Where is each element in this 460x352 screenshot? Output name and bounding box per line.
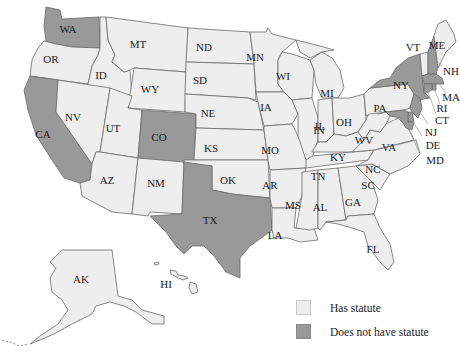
legend-label-has-statute: Has statute: [330, 302, 381, 314]
state-label-co: CO: [151, 132, 166, 143]
state-mt: [106, 17, 188, 72]
state-label-tx: TX: [203, 215, 218, 226]
state-label-ca: CA: [35, 129, 50, 140]
state-label-ct: CT: [435, 115, 449, 126]
state-label-pa: PA: [373, 103, 386, 114]
state-label-nc: NC: [365, 164, 380, 175]
state-label-ny: NY: [393, 80, 409, 91]
leader-line-nj: [420, 112, 428, 124]
legend-item-no-statute: Does not have statute: [296, 324, 429, 339]
state-label-ia: IA: [260, 102, 272, 113]
state-label-sd: SD: [193, 75, 207, 86]
state-ma: [422, 74, 444, 84]
state-label-az: AZ: [100, 175, 115, 186]
state-label-ne: NE: [201, 108, 216, 119]
state-co: [138, 110, 196, 164]
state-label-ak: AK: [73, 274, 89, 285]
state-label-fl: FL: [367, 244, 380, 255]
state-label-sc: SC: [361, 180, 374, 191]
state-label-ok: OK: [220, 175, 236, 186]
state-label-in: IN: [313, 125, 325, 136]
state-ak: [30, 250, 164, 344]
state-label-nd: ND: [196, 42, 212, 53]
state-label-or: OR: [43, 54, 58, 65]
state-label-md: MD: [426, 155, 444, 166]
state-ri: [432, 84, 436, 90]
legend-label-no-statute: Does not have statute: [330, 326, 429, 338]
state-label-wi: WI: [276, 71, 290, 82]
state-label-mt: MT: [130, 39, 147, 50]
state-label-ga: GA: [345, 197, 361, 208]
state-label-ri: RI: [437, 103, 448, 114]
state-label-la: LA: [268, 230, 283, 241]
state-label-ut: UT: [106, 123, 121, 134]
state-label-ms: MS: [285, 200, 301, 211]
state-label-ar: AR: [262, 180, 277, 191]
state-ne: [185, 94, 264, 130]
state-label-nh: NH: [443, 66, 459, 77]
aleutian-islands: [2, 340, 28, 346]
legend-item-has-statute: Has statute: [296, 300, 381, 315]
state-label-ks: KS: [204, 143, 218, 154]
state-fl: [326, 214, 394, 270]
state-label-vt: VT: [406, 42, 421, 53]
state-label-mn: MN: [246, 52, 264, 63]
state-label-wy: WY: [141, 84, 159, 95]
state-label-al: AL: [313, 202, 328, 213]
legend-swatch-has-statute: [296, 300, 311, 315]
state-label-wa: WA: [59, 24, 76, 35]
state-label-wv: WV: [355, 135, 373, 146]
state-label-me: ME: [429, 40, 446, 51]
legend-swatch-no-statute: [296, 324, 311, 339]
state-label-nm: NM: [147, 178, 165, 189]
leader-line-de: [412, 120, 422, 136]
state-label-ky: KY: [330, 152, 346, 163]
state-label-nv: NV: [65, 112, 81, 123]
state-label-mo: MO: [261, 145, 279, 156]
state-label-tn: TN: [311, 171, 326, 182]
state-label-hi: HI: [160, 279, 172, 290]
state-label-va: VA: [382, 142, 396, 153]
leader-line-ct: [428, 92, 436, 114]
state-label-oh: OH: [336, 117, 352, 128]
state-label-nj: NJ: [425, 127, 437, 138]
state-label-id: ID: [95, 70, 107, 81]
state-label-de: DE: [426, 140, 441, 151]
state-label-mi: MI: [320, 88, 333, 99]
